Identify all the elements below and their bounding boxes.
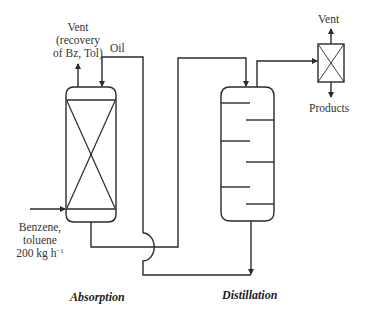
absorption-caption: Absorption [70,290,125,305]
feed-label-line1: Benzene, [10,221,70,234]
vent-label-line3: of Bz, Tol) [46,47,110,60]
oil-line [102,57,143,233]
separator-box [318,44,344,82]
distillation-caption: Distillation [222,288,277,303]
feed-label: Benzene, toluene 200 kg h−1 [10,221,70,260]
distillation-column [221,87,274,221]
top-vent-label: Vent [318,13,339,26]
feed-label-line2: toluene [10,234,70,247]
oil-return-line [143,233,251,275]
absorber-vent-label: Vent (recovery of Bz, Tol) [46,21,110,60]
overhead-line [257,61,317,87]
vent-label-line1: Vent [46,21,110,34]
vent-label-line2: (recovery [46,34,110,47]
absorption-column [66,87,116,222]
feed-label-line3: 200 kg h−1 [10,247,70,260]
oil-label: Oil [110,42,125,55]
products-label: Products [309,102,349,115]
